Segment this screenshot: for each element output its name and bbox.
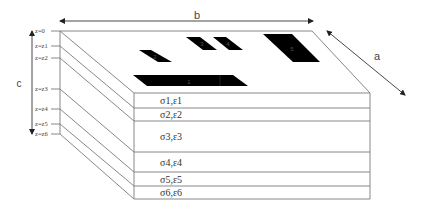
layer-label: σ5,ε5 bbox=[160, 174, 182, 185]
left-side-layer-lines bbox=[60, 46, 134, 199]
z-level-label: z=z2 bbox=[35, 54, 48, 61]
layer-label: σ2,ε2 bbox=[160, 109, 182, 120]
left-diagonal-line bbox=[60, 109, 134, 172]
z-level-labels: z=0z=z1z=z2z=z3z=z4z=z5z=z6 bbox=[35, 27, 60, 137]
z-level-label: z=0 bbox=[35, 27, 45, 34]
dimension-c-label: c bbox=[17, 78, 22, 89]
z-level-label: z=z1 bbox=[35, 42, 48, 49]
front-layer-lines bbox=[134, 108, 370, 199]
dimension-a-arrow bbox=[327, 31, 405, 95]
dimension-a-label: a bbox=[374, 50, 381, 62]
left-diagonal-line bbox=[60, 134, 134, 199]
plate-diagram: z=0z=z1z=z2z=z3z=z4z=z5z=z6 1 2 3 4 5 b … bbox=[0, 0, 421, 213]
dimension-a: a bbox=[327, 31, 405, 95]
layer-label: σ4,ε4 bbox=[160, 157, 182, 168]
z-level-label: z=z5 bbox=[35, 120, 48, 127]
left-diagonal-line bbox=[60, 58, 134, 121]
left-diagonal-line bbox=[60, 124, 134, 186]
layer-labels: σ1,ε1σ2,ε2σ3,ε3σ4,ε4σ5,ε5σ6,ε6 bbox=[160, 95, 182, 198]
layer-label: σ6,ε6 bbox=[160, 187, 182, 198]
layer-label: σ3,ε3 bbox=[160, 131, 182, 142]
layer-label: σ1,ε1 bbox=[160, 95, 182, 106]
surface-patches: 1 2 3 4 5 bbox=[133, 34, 320, 86]
z-level-label: z=z6 bbox=[35, 130, 48, 137]
dimension-b: b bbox=[60, 9, 313, 21]
z-level-label: z=z3 bbox=[35, 85, 48, 92]
dimension-b-label: b bbox=[194, 9, 200, 21]
dimension-c: c bbox=[17, 31, 33, 134]
z-level-label: z=z4 bbox=[35, 105, 48, 112]
